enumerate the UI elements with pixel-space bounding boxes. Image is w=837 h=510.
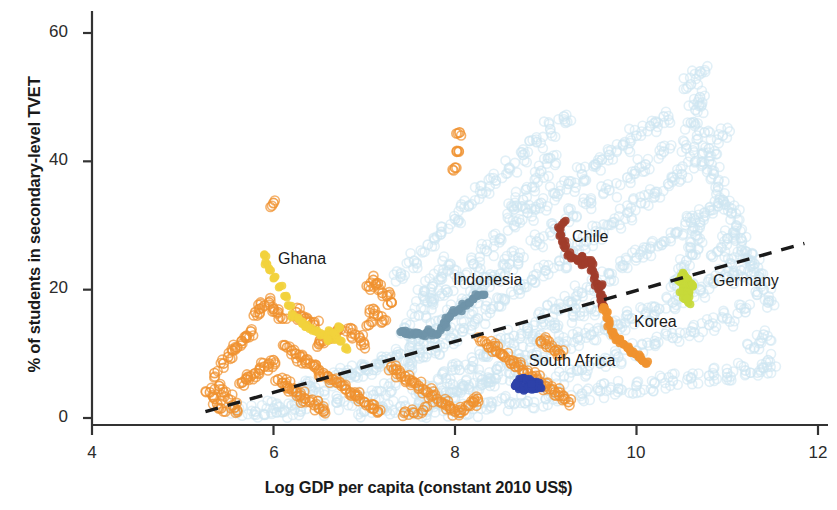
series-label-ghana: Ghana — [278, 250, 326, 268]
chart-figure: 60 40 20 0 4 6 8 10 12 Log GDP per capit… — [0, 0, 837, 510]
series-label-indonesia: Indonesia — [453, 271, 522, 289]
series-label-south-africa: South Africa — [529, 352, 615, 370]
x-tick-label-6: 6 — [254, 443, 294, 463]
x-axis-title: Log GDP per capita (constant 2010 US$) — [0, 478, 837, 497]
y-axis-title: % of students in secondary-level TVET — [25, 15, 44, 435]
series-label-korea: Korea — [634, 313, 677, 331]
x-tick-label-4: 4 — [72, 443, 112, 463]
series-label-germany: Germany — [713, 272, 779, 290]
x-tick-label-8: 8 — [435, 443, 475, 463]
x-tick-label-10: 10 — [616, 443, 656, 463]
x-tick-label-12: 12 — [798, 443, 837, 463]
series-label-chile: Chile — [572, 228, 608, 246]
scatter-plot-canvas — [0, 0, 837, 510]
